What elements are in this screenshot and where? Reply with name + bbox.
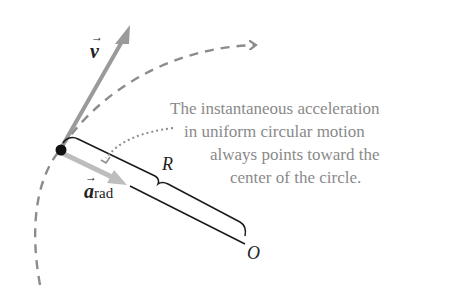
acceleration-subscript: rad: [94, 185, 113, 201]
caption-line-3: always points toward the: [210, 144, 380, 165]
radius-label: R: [162, 154, 173, 175]
circular-path: [35, 45, 255, 285]
caption-line-2: in uniform circular motion: [184, 121, 365, 142]
acceleration-label: → arad: [84, 180, 113, 203]
caption-line-4: center of the circle.: [230, 167, 361, 188]
caption-line-1: The instantaneous acceleration: [170, 98, 380, 119]
dotted-pointer-head: [101, 157, 110, 163]
center-label: O: [247, 243, 260, 264]
particle-point: [56, 145, 67, 156]
velocity-label: → v: [90, 40, 99, 63]
